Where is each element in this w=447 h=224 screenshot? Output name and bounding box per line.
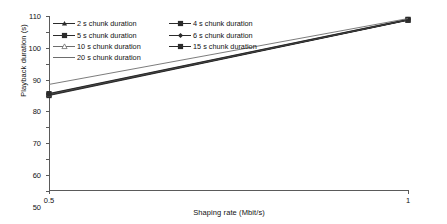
legend-marker-icon	[169, 31, 191, 40]
legend-entry: 4 s chunk duration	[169, 19, 293, 28]
y-tick-label: 110	[29, 12, 41, 21]
legend-entry: 15 s chunk duration	[169, 42, 293, 51]
y-tick-label: 90	[33, 75, 41, 84]
legend-label: 5 s chunk duration	[77, 31, 137, 40]
y-tick-label: 50	[33, 202, 41, 211]
series-marker	[46, 91, 51, 96]
x-tick-label: 0.5	[44, 196, 54, 205]
series-marker	[405, 17, 410, 22]
legend-marker-icon	[169, 42, 191, 51]
legend-entry: 2 s chunk duration	[53, 19, 169, 28]
legend-label: 15 s chunk duration	[193, 42, 257, 51]
legend-marker-icon	[169, 19, 191, 28]
legend-marker-icon	[53, 42, 75, 51]
legend-label: 2 s chunk duration	[77, 19, 137, 28]
y-tick-label: 80	[33, 107, 41, 116]
chart-legend: 2 s chunk duration4 s chunk duration5 s …	[53, 18, 293, 64]
legend-entry: 20 s chunk duration	[53, 53, 169, 62]
chart-figure: Playback duration (s) Shaping rate (Mbit…	[0, 0, 447, 224]
x-axis-title: Shaping rate (Mbit/s)	[49, 208, 409, 217]
y-axis-title: Playback duration (s)	[19, 0, 28, 131]
legend-marker-icon	[53, 19, 75, 28]
y-tick-label: 60	[33, 171, 41, 180]
legend-marker-icon	[53, 31, 75, 40]
legend-marker-icon	[53, 53, 75, 62]
y-tick-label: 70	[33, 139, 41, 148]
legend-entry: 6 s chunk duration	[169, 31, 293, 40]
y-tick-label: 100	[28, 43, 41, 52]
x-tick-mark	[408, 190, 409, 194]
legend-entry: 5 s chunk duration	[53, 31, 169, 40]
legend-label: 20 s chunk duration	[77, 53, 141, 62]
x-tick-label: 1	[406, 196, 410, 205]
legend-label: 4 s chunk duration	[193, 19, 253, 28]
legend-label: 6 s chunk duration	[193, 31, 253, 40]
legend-entry: 10 s chunk duration	[53, 42, 169, 51]
legend-label: 10 s chunk duration	[77, 42, 141, 51]
